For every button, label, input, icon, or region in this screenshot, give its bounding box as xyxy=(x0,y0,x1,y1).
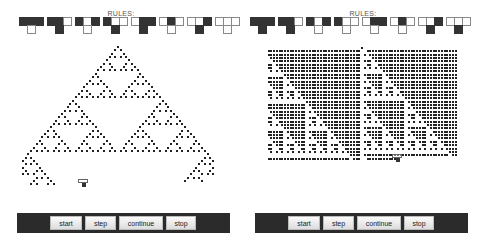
rule-toggle-011[interactable] xyxy=(362,17,386,37)
cell xyxy=(279,94,281,96)
cell xyxy=(281,104,283,106)
cell xyxy=(455,87,457,89)
cell xyxy=(435,87,437,89)
cell xyxy=(378,114,380,116)
step-button[interactable]: step xyxy=(85,216,116,230)
cell xyxy=(411,70,413,72)
cell xyxy=(380,87,382,89)
cell xyxy=(81,143,83,145)
rule-output-cell[interactable] xyxy=(398,25,407,34)
cell xyxy=(369,141,371,143)
cell xyxy=(276,54,278,56)
cell xyxy=(336,104,338,106)
cell xyxy=(441,70,443,72)
cell xyxy=(455,67,457,69)
cell xyxy=(353,114,355,116)
rule-toggle-010[interactable] xyxy=(159,17,183,37)
cell xyxy=(345,67,347,69)
rule-toggle-000[interactable] xyxy=(446,17,470,37)
cell xyxy=(380,114,382,116)
cell xyxy=(301,67,303,69)
cell xyxy=(201,147,203,149)
cell xyxy=(342,111,344,113)
cell xyxy=(276,60,278,62)
rule-toggle-000[interactable] xyxy=(215,17,239,37)
cell xyxy=(295,124,297,126)
rule-toggle-111[interactable] xyxy=(250,17,274,37)
rule-toggle-110[interactable] xyxy=(278,17,302,37)
rule-output-cell[interactable] xyxy=(167,25,176,34)
cell xyxy=(123,53,125,55)
rule-output-cell[interactable] xyxy=(27,25,36,34)
cell xyxy=(441,57,443,59)
cell xyxy=(292,70,294,72)
cell xyxy=(298,158,300,160)
rule-toggle-100[interactable] xyxy=(334,17,358,37)
cell xyxy=(193,136,195,138)
rule-output-cell[interactable] xyxy=(426,25,435,34)
rule-toggle-001[interactable] xyxy=(418,17,442,37)
rule-toggle-001[interactable] xyxy=(187,17,211,37)
rule-output-cell[interactable] xyxy=(370,25,379,34)
continue-button[interactable]: continue xyxy=(119,216,163,230)
rule-input-cell xyxy=(35,17,44,26)
cell xyxy=(86,90,88,92)
rule-output-cell[interactable] xyxy=(83,25,92,34)
cell xyxy=(156,106,158,108)
cell xyxy=(212,173,214,175)
rule-output-cell[interactable] xyxy=(55,25,64,34)
cell xyxy=(72,100,74,102)
rule-output-cell[interactable] xyxy=(111,25,120,34)
cell xyxy=(353,111,355,113)
cell xyxy=(314,137,316,139)
stop-button[interactable]: stop xyxy=(404,216,434,230)
cell xyxy=(394,117,396,119)
cell xyxy=(33,173,35,175)
rule-toggle-110[interactable] xyxy=(47,17,71,37)
cell xyxy=(386,111,388,113)
cell xyxy=(375,131,377,133)
start-button[interactable]: start xyxy=(288,216,320,230)
cell xyxy=(103,83,105,85)
cell xyxy=(312,121,314,123)
rule-input-cell xyxy=(350,17,359,26)
cell xyxy=(334,131,336,133)
rule-toggle-101[interactable] xyxy=(75,17,99,37)
rule-output-cell[interactable] xyxy=(195,25,204,34)
rule-output-cell[interactable] xyxy=(342,25,351,34)
cell xyxy=(402,141,404,143)
cell xyxy=(281,97,283,99)
cell xyxy=(339,124,341,126)
cell xyxy=(391,74,393,76)
rule-output-cell[interactable] xyxy=(454,25,463,34)
cell xyxy=(268,81,270,83)
cell xyxy=(342,50,344,52)
cell xyxy=(75,150,77,152)
continue-button[interactable]: continue xyxy=(357,216,401,230)
rule-toggle-111[interactable] xyxy=(19,17,43,37)
rule-toggle-100[interactable] xyxy=(103,17,127,37)
cell xyxy=(134,80,136,82)
cell xyxy=(284,158,286,160)
rule-output-cell[interactable] xyxy=(258,25,267,34)
rule-toggle-011[interactable] xyxy=(131,17,155,37)
cell xyxy=(397,57,399,59)
cell xyxy=(306,84,308,86)
cell xyxy=(55,120,57,122)
start-button[interactable]: start xyxy=(50,216,82,230)
cell xyxy=(444,84,446,86)
stop-button[interactable]: stop xyxy=(166,216,196,230)
rule-output-cell[interactable] xyxy=(314,25,323,34)
cell xyxy=(276,134,278,136)
cell xyxy=(378,131,380,133)
cell xyxy=(320,107,322,109)
cell xyxy=(438,70,440,72)
rule-output-cell[interactable] xyxy=(286,25,295,34)
rule-output-cell[interactable] xyxy=(139,25,148,34)
rule-output-cell[interactable] xyxy=(223,25,232,34)
step-button[interactable]: step xyxy=(323,216,354,230)
rule-toggle-101[interactable] xyxy=(306,17,330,37)
cell xyxy=(306,74,308,76)
rule-toggle-010[interactable] xyxy=(390,17,414,37)
cell xyxy=(389,144,391,146)
